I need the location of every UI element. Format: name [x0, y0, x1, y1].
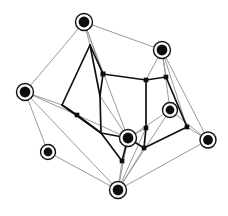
node-core — [79, 17, 90, 28]
graph-node-hub[interactable] — [120, 130, 137, 147]
graph-edge — [62, 45, 90, 105]
graph-node-square[interactable] — [144, 126, 149, 131]
graph-edge — [25, 92, 118, 190]
node-core — [157, 45, 168, 56]
graph-edge — [103, 74, 146, 80]
graph-node-square[interactable] — [120, 159, 125, 164]
graph-node-square[interactable] — [75, 113, 80, 118]
graph-node-hub[interactable] — [110, 182, 127, 199]
graph-node-hub[interactable] — [76, 14, 93, 31]
graph-edge — [100, 96, 101, 133]
graph-node-hub[interactable] — [17, 84, 34, 101]
graph-node-square[interactable] — [142, 146, 147, 151]
graph-edge — [48, 152, 118, 190]
node-core — [203, 135, 213, 145]
graph-node-hub[interactable] — [41, 145, 56, 160]
edge-layer-outer — [25, 22, 208, 190]
graph-node-hub[interactable] — [200, 132, 216, 148]
graph-node-square[interactable] — [164, 75, 169, 80]
node-core — [44, 148, 53, 157]
graph-node-hub[interactable] — [154, 42, 171, 59]
graph-edge — [146, 77, 166, 80]
graph-edge — [84, 22, 162, 50]
graph-node-square[interactable] — [144, 78, 149, 83]
node-core — [123, 133, 134, 144]
graph-node-square[interactable] — [185, 125, 190, 130]
network-graph-canvas — [0, 0, 228, 216]
node-core — [113, 185, 124, 196]
node-core — [166, 106, 175, 115]
node-core — [20, 87, 31, 98]
graph-node-square[interactable] — [101, 72, 106, 77]
graph-node-hub[interactable] — [163, 103, 178, 118]
graph-edge — [90, 45, 103, 74]
graph-edge — [118, 140, 208, 190]
graph-edge — [25, 22, 84, 92]
graph-edge — [100, 74, 103, 96]
network-graph-figure — [0, 0, 228, 216]
graph-edge — [144, 127, 187, 148]
